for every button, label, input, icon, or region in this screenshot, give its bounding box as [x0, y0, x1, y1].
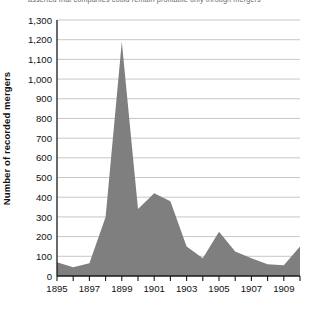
y-axis-tick-label: 700: [36, 133, 52, 144]
area-series-recorded-mergers: [57, 42, 300, 276]
x-axis-tick-label: 1903: [176, 283, 197, 294]
y-axis-tick-label: 800: [36, 113, 52, 124]
y-axis-tick-label: 600: [36, 152, 52, 163]
x-axis-tick-label: 1897: [79, 283, 100, 294]
y-axis-tick-label: 400: [36, 192, 52, 203]
y-axis-tick-label: 1,000: [28, 74, 52, 85]
x-axis-tick-label: 1895: [46, 283, 67, 294]
y-axis-tick-label: 100: [36, 251, 52, 262]
y-axis-tick-label: 1,300: [28, 15, 52, 26]
y-axis-tick-label: 1,200: [28, 34, 52, 45]
x-axis-tick-label: 1909: [273, 283, 294, 294]
x-axis-tick-label: 1907: [241, 283, 262, 294]
y-axis-tick-label: 1,100: [28, 54, 52, 65]
x-axis-tick-label: 1905: [208, 283, 229, 294]
x-axis-tick-label: 1899: [111, 283, 132, 294]
area-chart-plot: 01002003004005006007008009001,0001,1001,…: [0, 0, 313, 310]
y-axis-tick-label: 300: [36, 212, 52, 223]
y-axis-tick-label: 500: [36, 172, 52, 183]
x-axis-tick-label: 1901: [144, 283, 165, 294]
y-axis-tick-label: 900: [36, 93, 52, 104]
y-axis-tick-label: 0: [47, 271, 52, 282]
chart-figure: asserted that companies could remain pro…: [0, 0, 313, 310]
y-axis-tick-label: 200: [36, 231, 52, 242]
